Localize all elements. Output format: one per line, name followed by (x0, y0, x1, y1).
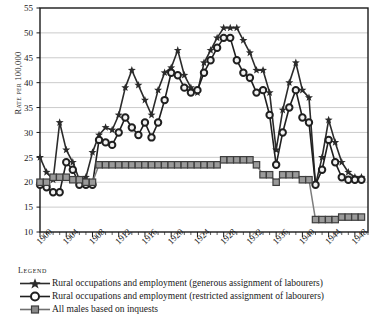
data-point-square (70, 177, 76, 183)
data-point-circle (312, 182, 318, 188)
data-point-star (233, 24, 241, 32)
series-square (37, 157, 365, 223)
data-point-circle (175, 72, 181, 78)
data-point-square (293, 172, 299, 178)
x-tick-label-1904: 1904 (61, 226, 81, 246)
data-point-circle (161, 97, 167, 103)
data-point-square (319, 216, 325, 222)
data-point-circle (96, 137, 102, 143)
data-point-square (194, 162, 200, 168)
data-point-circle (214, 45, 220, 51)
data-point-circle (286, 104, 292, 110)
data-point-square (188, 162, 194, 168)
data-point-circle (56, 189, 62, 195)
legend-entry-inquests: All males based on inquests (18, 303, 376, 316)
data-point-circle (194, 87, 200, 93)
data-point-square (89, 179, 95, 185)
data-point-circle (273, 162, 279, 168)
data-point-square (345, 214, 351, 220)
x-tick-label-1916: 1916 (139, 226, 159, 246)
x-tick-label-1932: 1932 (244, 227, 264, 247)
data-point-circle (227, 35, 233, 41)
data-point-square (122, 162, 128, 168)
chart-legend: Legend Rural occupations and employment … (18, 266, 376, 316)
data-point-square (227, 157, 233, 163)
data-point-circle (240, 70, 246, 76)
data-point-square (181, 162, 187, 168)
data-point-square (339, 214, 345, 220)
data-point-circle (306, 119, 312, 125)
data-point-circle (155, 119, 161, 125)
data-point-square (142, 162, 148, 168)
data-series-group (36, 24, 365, 223)
data-point-star (239, 36, 247, 44)
data-point-square (253, 162, 259, 168)
data-point-square (247, 157, 253, 163)
data-point-circle (129, 124, 135, 130)
data-point-square (175, 162, 181, 168)
data-point-circle (253, 89, 259, 95)
data-point-circle (293, 87, 299, 93)
legend-title: Legend (18, 266, 376, 275)
data-point-square (299, 177, 305, 183)
data-point-square (260, 172, 266, 178)
data-point-circle (332, 159, 338, 165)
data-point-star (226, 24, 234, 32)
data-point-square (109, 162, 115, 168)
data-point-square (129, 162, 135, 168)
data-point-square (56, 174, 62, 180)
data-point-star (141, 96, 149, 104)
data-point-square (76, 177, 82, 183)
data-point-circle (63, 159, 69, 165)
plot-frame (40, 8, 368, 232)
data-point-circle (247, 74, 253, 80)
y-tick-label-55: 55 (24, 3, 34, 13)
legend-label-inquests: All males based on inquests (52, 303, 158, 316)
data-point-square (161, 162, 167, 168)
x-tick-label-1908: 1908 (87, 226, 107, 246)
data-point-square (214, 162, 220, 168)
data-point-circle (266, 112, 272, 118)
series-circle (37, 35, 365, 196)
data-point-circle (207, 57, 213, 63)
data-point-circle (220, 35, 226, 41)
y-tick-label-30: 30 (24, 128, 34, 138)
data-point-square (43, 179, 49, 185)
x-tick-label-1924: 1924 (192, 226, 212, 246)
y-tick-label-25: 25 (24, 153, 34, 163)
data-point-square (312, 216, 318, 222)
data-point-circle (122, 114, 128, 120)
data-point-circle (345, 177, 351, 183)
data-point-square (37, 179, 43, 185)
y-tick-label-10: 10 (24, 227, 34, 237)
x-tick-label-1928: 1928 (218, 226, 238, 246)
legend-label-restricted: Rural occupations and employment (restri… (52, 290, 324, 303)
data-point-circle (109, 142, 115, 148)
circle-line-key-icon (18, 290, 52, 303)
data-point-square (240, 157, 246, 163)
legend-entry-restricted: Rural occupations and employment (restri… (18, 290, 376, 303)
data-point-square (135, 162, 141, 168)
x-tick-label-1948: 1948 (349, 226, 369, 246)
x-axis-tick-labels-group: 1900190419081912191619201924192819321936… (34, 226, 369, 246)
y-tick-label-40: 40 (24, 78, 34, 88)
data-point-square (63, 174, 69, 180)
data-point-square (325, 216, 331, 222)
data-point-circle (260, 87, 266, 93)
data-point-circle (299, 114, 305, 120)
data-point-square (207, 162, 213, 168)
data-point-square (332, 216, 338, 222)
data-point-circle (201, 70, 207, 76)
data-point-circle (181, 84, 187, 90)
data-point-star (62, 146, 70, 154)
data-point-circle (325, 137, 331, 143)
data-point-square (155, 162, 161, 168)
data-point-star (148, 111, 156, 119)
x-tick-label-1940: 1940 (297, 226, 317, 246)
star-line-key-icon (18, 277, 52, 290)
data-point-circle (168, 70, 174, 76)
data-point-square (234, 157, 240, 163)
data-point-square (220, 157, 226, 163)
y-tick-label-35: 35 (24, 103, 34, 113)
data-point-circle (280, 129, 286, 135)
